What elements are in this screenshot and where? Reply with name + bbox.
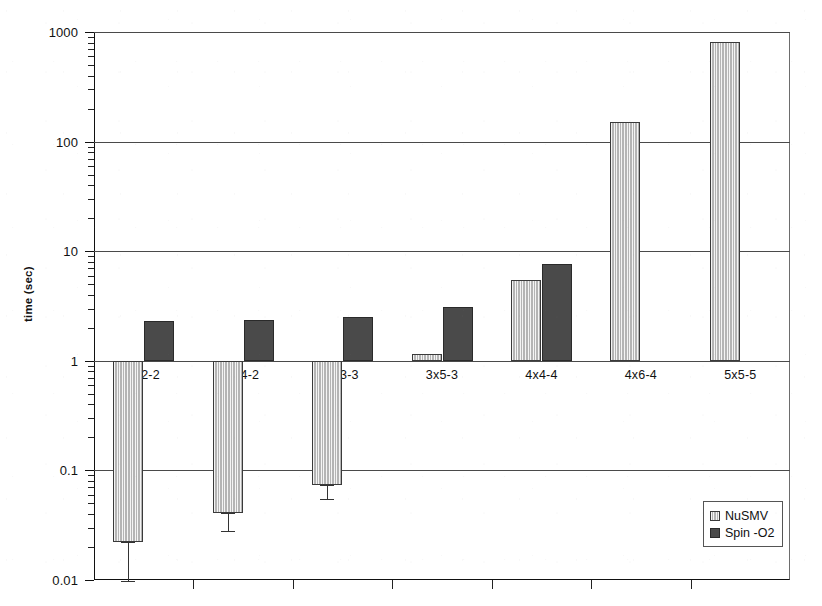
y-axis-minor-tick <box>88 268 94 269</box>
y-axis-minor-tick <box>88 378 94 379</box>
y-axis-minor-tick <box>88 309 94 310</box>
y-axis-minor-tick <box>88 284 94 285</box>
bar-spin <box>343 317 373 361</box>
y-axis-minor-tick <box>88 418 94 419</box>
y-axis-minor-tick <box>88 49 94 50</box>
y-axis-minor-tick <box>88 404 94 405</box>
y-axis-minor-tick <box>88 371 94 372</box>
y-axis-minor-tick <box>88 328 94 329</box>
x-axis-divider <box>293 580 294 589</box>
bar-nusmv <box>511 280 541 361</box>
y-axis-minor-tick <box>88 276 94 277</box>
legend-item-nusmv: NuSMV <box>710 507 774 524</box>
error-bar-cap-upper <box>221 513 235 514</box>
bar-spin <box>144 321 174 361</box>
x-axis-category-label: 4x4-4 <box>525 368 557 382</box>
error-bar-stem <box>327 485 328 499</box>
bar-spin <box>443 307 473 361</box>
y-axis-minor-tick <box>88 199 94 200</box>
y-axis-minor-tick <box>88 147 94 148</box>
gridline <box>94 251 790 252</box>
gridline <box>94 470 790 471</box>
x-axis-divider <box>492 580 493 589</box>
error-bar-cap-lower <box>320 499 334 500</box>
y-axis-minor-tick <box>88 487 94 488</box>
bar-nusmv <box>113 361 143 543</box>
y-axis-minor-tick <box>88 394 94 395</box>
bar-chart: 10001001010.10.01 time (sec) 2x2-22x4-23… <box>0 0 822 606</box>
y-axis-minor-tick <box>88 495 94 496</box>
y-axis-major-tick <box>85 32 94 33</box>
x-axis-divider <box>591 580 592 589</box>
y-axis-minor-tick <box>88 56 94 57</box>
y-axis-minor-tick <box>88 503 94 504</box>
y-axis-minor-tick <box>88 65 94 66</box>
chart-legend: NuSMV Spin -O2 <box>703 501 783 547</box>
error-bar-cap-lower <box>121 581 135 582</box>
y-axis-major-tick <box>85 580 94 581</box>
y-axis-tick-label: 1000 <box>30 25 78 40</box>
y-axis-tick-label: 100 <box>30 134 78 149</box>
y-axis-tick-label: 0.1 <box>30 463 78 478</box>
error-bar-stem <box>228 513 229 531</box>
y-axis-minor-tick <box>88 481 94 482</box>
x-axis-category-label: 3x5-3 <box>426 368 458 382</box>
y-axis-minor-tick <box>88 109 94 110</box>
y-axis-minor-tick <box>88 43 94 44</box>
bar-nusmv <box>412 354 442 361</box>
y-axis-minor-tick <box>88 366 94 367</box>
legend-swatch-nusmv-icon <box>710 511 720 521</box>
legend-label-spin: Spin -O2 <box>725 526 774 540</box>
error-bar-stem <box>128 542 129 580</box>
y-axis-major-tick <box>85 470 94 471</box>
error-bar-cap-lower <box>221 531 235 532</box>
y-axis-minor-tick <box>88 76 94 77</box>
bar-nusmv <box>213 361 243 513</box>
gridline <box>94 142 790 143</box>
error-bar-cap-upper <box>121 542 135 543</box>
y-axis-minor-tick <box>88 175 94 176</box>
y-axis-minor-tick <box>88 166 94 167</box>
x-axis-divider <box>193 580 194 589</box>
bar-nusmv <box>312 361 342 485</box>
bar-spin <box>244 320 274 361</box>
y-axis-minor-tick <box>88 437 94 438</box>
y-axis-minor-tick <box>88 475 94 476</box>
legend-label-nusmv: NuSMV <box>725 509 768 523</box>
bar-nusmv <box>610 122 640 360</box>
gridline <box>94 32 790 33</box>
y-axis-minor-tick <box>88 89 94 90</box>
y-axis-title: time (sec) <box>22 266 34 322</box>
gridline <box>94 361 790 362</box>
bar-spin <box>542 264 572 361</box>
y-axis-major-tick <box>85 142 94 143</box>
legend-item-spin: Spin -O2 <box>710 524 774 541</box>
y-axis-minor-tick <box>88 547 94 548</box>
y-axis-tick-label: 1 <box>30 353 78 368</box>
y-axis-minor-tick <box>88 528 94 529</box>
y-axis-minor-tick <box>88 37 94 38</box>
y-axis-minor-tick <box>88 152 94 153</box>
y-axis-tick-label: 0.01 <box>30 573 78 588</box>
y-axis-minor-tick <box>88 262 94 263</box>
y-axis-minor-tick <box>88 385 94 386</box>
y-axis-major-tick <box>85 251 94 252</box>
y-axis-major-tick <box>85 361 94 362</box>
bar-nusmv <box>710 42 740 361</box>
x-axis-category-label: 5x5-5 <box>724 368 756 382</box>
y-axis-minor-tick <box>88 159 94 160</box>
y-axis-minor-tick <box>88 185 94 186</box>
y-axis-tick-label: 10 <box>30 244 78 259</box>
y-axis-minor-tick <box>88 295 94 296</box>
y-axis-minor-tick <box>88 514 94 515</box>
x-axis-divider <box>691 580 692 589</box>
x-axis-divider <box>392 580 393 589</box>
y-axis-minor-tick <box>88 218 94 219</box>
y-axis-minor-tick <box>88 256 94 257</box>
error-bar-cap-upper <box>320 485 334 486</box>
x-axis-category-label: 4x6-4 <box>625 368 657 382</box>
legend-swatch-spin-icon <box>710 528 720 538</box>
